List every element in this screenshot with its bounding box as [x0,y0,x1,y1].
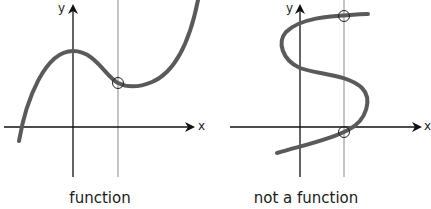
relation-curve [277,14,368,153]
x-axis-label: x [198,119,205,133]
x-axis-label: x [424,119,431,133]
function-curve [19,0,198,141]
function-graph [4,0,198,177]
caption-not-function: not a function [226,189,386,207]
diagram-canvas [0,0,431,209]
not-function-graph [230,0,420,177]
caption-function: function [20,189,180,207]
y-axis-label: y [286,1,293,15]
y-axis-label: y [58,1,65,15]
